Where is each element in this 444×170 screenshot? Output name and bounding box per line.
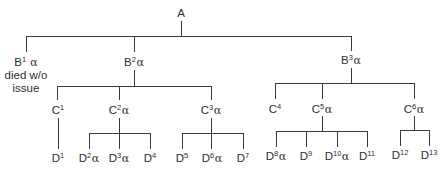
alpha-symbol: α (353, 54, 360, 67)
connector-line-vertical (134, 70, 135, 86)
node-label: A (177, 7, 185, 19)
connector-line-vertical (182, 133, 183, 149)
tree-node-c4: C4 (269, 103, 281, 115)
tree-node-d3: D3α (109, 152, 129, 165)
node-superscript: 13 (429, 148, 437, 157)
connector-line-horizontal (275, 83, 415, 84)
connector-line-vertical (119, 118, 120, 149)
tree-node-d2: D2α (79, 152, 99, 165)
node-superscript: 1 (22, 55, 26, 64)
connector-line-vertical (367, 131, 368, 147)
connector-line-vertical (429, 130, 430, 146)
node-superscript: 7 (245, 151, 249, 160)
tree-node-d12: D12 (392, 149, 409, 161)
node-label: D4 (144, 152, 156, 164)
node-superscript: 1 (60, 151, 64, 160)
node-label: C2α (109, 104, 129, 116)
node-label: D12 (392, 149, 409, 161)
tree-node-d10: D10α (325, 150, 350, 163)
tree-node-d1: D1 (52, 152, 64, 164)
connector-line-horizontal (57, 86, 212, 87)
node-superscript: 2 (117, 103, 121, 112)
connector-line-vertical (211, 86, 212, 100)
node-label: B3α (341, 54, 361, 66)
connector-line-vertical (243, 133, 244, 149)
connector-line-vertical (276, 131, 277, 147)
connector-line-vertical (322, 116, 323, 131)
connector-line-vertical (351, 68, 352, 83)
node-annotation: issue (5, 82, 48, 95)
node-superscript: 3 (209, 103, 213, 112)
connector-line-vertical (351, 36, 352, 51)
node-label: D1 (52, 152, 64, 164)
node-label: C3α (201, 104, 221, 116)
connector-line-vertical (57, 86, 58, 100)
connector-line-vertical (134, 36, 135, 52)
node-label: C6α (404, 103, 424, 115)
node-label: D8α (266, 150, 286, 162)
node-superscript: 4 (277, 102, 281, 111)
node-annotation: died w/o (5, 69, 48, 82)
node-superscript: 5 (320, 102, 324, 111)
node-label: B2α (124, 56, 144, 68)
connector-line-horizontal (400, 130, 430, 131)
node-label: C5α (312, 103, 332, 115)
connector-line-vertical (58, 118, 59, 149)
node-superscript: 6 (412, 102, 416, 111)
connector-line-horizontal (26, 36, 352, 37)
node-label: B1 α (14, 56, 37, 68)
tree-node-c1: C1 (52, 104, 64, 116)
tree-node-d6: D6α (202, 152, 222, 165)
node-superscript: 2 (87, 151, 91, 160)
node-superscript: 8 (274, 149, 278, 158)
node-superscript: 9 (308, 149, 312, 158)
connector-line-horizontal (182, 133, 244, 134)
tree-node-b2: B2α (124, 56, 144, 69)
alpha-symbol: α (122, 104, 129, 117)
node-superscript: 1 (60, 103, 64, 112)
node-superscript: 10 (333, 149, 341, 158)
tree-node-a: A (177, 7, 185, 19)
node-label: D6α (202, 152, 222, 164)
node-label: D13 (421, 149, 438, 161)
connector-line-horizontal (276, 131, 368, 132)
alpha-symbol: α (325, 103, 332, 116)
node-superscript: 4 (152, 151, 156, 160)
alpha-symbol: α (342, 150, 349, 163)
node-label: C4 (269, 103, 281, 115)
tree-node-c3: C3α (201, 104, 221, 117)
connector-line-vertical (400, 130, 401, 146)
node-label: D3α (109, 152, 129, 164)
alpha-symbol: α (136, 56, 143, 69)
node-label: D2α (79, 152, 99, 164)
node-label: D5 (176, 152, 188, 164)
connector-line-vertical (275, 83, 276, 99)
tree-node-d9: D9 (300, 150, 312, 162)
connector-line-vertical (414, 83, 415, 99)
tree-node-b1: B1 αdied w/oissue (5, 56, 48, 94)
connector-line-vertical (150, 133, 151, 149)
connector-line-vertical (306, 131, 307, 147)
alpha-symbol: α (92, 152, 99, 165)
connector-line-vertical (119, 86, 120, 100)
node-label: C1 (52, 104, 64, 116)
tree-node-d5: D5 (176, 152, 188, 164)
connector-line-vertical (322, 83, 323, 99)
node-label: D10α (325, 150, 350, 162)
alpha-symbol: α (27, 56, 38, 69)
connector-line-vertical (89, 133, 90, 149)
family-tree-diagram: A B1 αdied w/oissueB2αB3αC1C2αC3αC4C5αC6… (0, 0, 444, 170)
tree-node-d11: D11 (359, 150, 375, 162)
tree-node-c2: C2α (109, 104, 129, 117)
alpha-symbol: α (214, 104, 221, 117)
node-superscript: 11 (367, 149, 375, 158)
alpha-symbol: α (417, 103, 424, 116)
node-superscript: 12 (400, 148, 408, 157)
tree-node-d4: D4 (144, 152, 156, 164)
connector-line-vertical (337, 131, 338, 147)
connector-line-vertical (414, 116, 415, 130)
tree-node-d13: D13 (421, 149, 438, 161)
node-label: D9 (300, 150, 312, 162)
tree-node-b3: B3α (341, 54, 361, 67)
connector-line-vertical (181, 21, 182, 36)
